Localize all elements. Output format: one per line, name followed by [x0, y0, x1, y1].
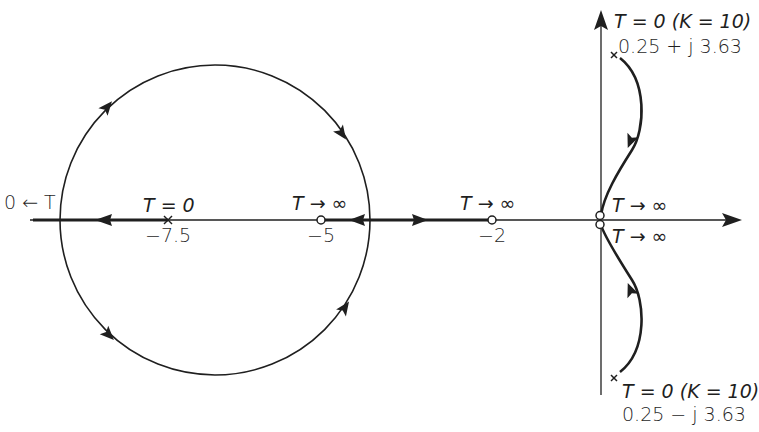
- locus-upper-branch: [601, 58, 642, 215]
- label-zero-m5-bottom: −5: [307, 226, 335, 245]
- arrow-left-icon: [95, 214, 112, 226]
- label-origin-lower: T → ∞: [612, 227, 667, 246]
- label-pole-m75-top: T = 0: [143, 196, 195, 215]
- label-origin-upper: T → ∞: [612, 196, 667, 215]
- zero-marker-origin-lower: [596, 221, 604, 229]
- label-zero-m2-top: T → ∞: [460, 194, 515, 213]
- label-zero-m5-top: T → ∞: [292, 194, 347, 213]
- arrow-to-minus5-icon: [349, 214, 365, 226]
- circle-arrow-lower-left-icon: [100, 326, 118, 344]
- locus-real-mid: [325, 214, 488, 226]
- locus-lower-branch: [601, 225, 642, 372]
- label-upper-pole-line2: 0.25 + j 3.63: [618, 37, 742, 56]
- zero-marker-origin-upper: [596, 212, 604, 220]
- label-upper-pole-line1: T = 0 (K = 10): [614, 12, 751, 31]
- pole-marker-lower: [611, 375, 617, 381]
- zero-marker-neg-2: [488, 216, 496, 224]
- zero-marker-neg-5: [317, 216, 325, 224]
- pole-marker-upper: [611, 52, 617, 58]
- label-pole-m75-bottom: −7.5: [145, 226, 191, 245]
- circle-arrow-upper-left-icon: [98, 97, 116, 115]
- label-zero-m2-bottom: −2: [478, 226, 506, 245]
- label-lower-pole-line1: T = 0 (K = 10): [622, 382, 759, 401]
- arrow-to-minus2-icon: [412, 214, 428, 226]
- imaginary-axis: [594, 10, 608, 395]
- label-lower-pole-line2: 0.25 − j 3.63: [622, 405, 746, 424]
- label-left-end: 0 ← T: [4, 193, 56, 212]
